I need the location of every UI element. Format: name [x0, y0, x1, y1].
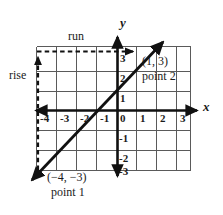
- y-tick-label--2: -2: [119, 153, 128, 164]
- point-1-name-label: point 1: [51, 186, 85, 198]
- y-tick-label--1: -1: [119, 133, 128, 144]
- x-tick-label-3: 3: [180, 113, 186, 124]
- x-tick-label--2: -2: [80, 113, 89, 124]
- run-label: run: [68, 30, 84, 42]
- x-axis-label: x: [203, 100, 210, 113]
- coordinate-plane-svg: [0, 0, 223, 215]
- y-axis-label: y: [120, 16, 126, 29]
- y-tick-label-2: 2: [120, 73, 126, 84]
- y-tick-label-3: 3: [120, 53, 126, 64]
- graph-figure: -4 -3 -2 -1 0 1 2 3 3 2 1 -1 -2 -3 y x r…: [0, 0, 223, 215]
- point-2-name-label: point 2: [142, 70, 176, 82]
- x-tick-label-1: 1: [140, 113, 146, 124]
- axis-lines: [36, 37, 197, 176]
- x-tick-label-2: 2: [160, 113, 166, 124]
- x-tick-label--1: -1: [100, 113, 109, 124]
- rise-label: rise: [9, 69, 26, 81]
- x-tick-label--3: -3: [60, 113, 69, 124]
- y-tick-label--3: -3: [119, 166, 128, 177]
- y-tick-label-1: 1: [120, 93, 126, 104]
- point-2-coords-label: (1, 3): [142, 55, 168, 67]
- x-tick-label-0: 0: [120, 113, 126, 124]
- point-1-coords-label: (−4, −3): [47, 171, 87, 183]
- x-tick-label--4: -4: [40, 113, 49, 124]
